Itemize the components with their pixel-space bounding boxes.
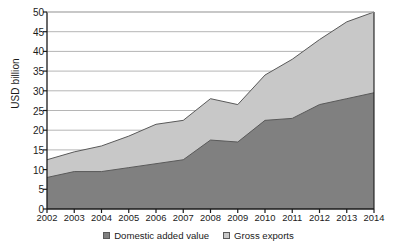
x-axis-tick-label: 2008 — [200, 212, 221, 223]
x-axis-tick-label: 2004 — [91, 212, 112, 223]
x-axis-tick-label: 2002 — [37, 212, 58, 223]
x-axis-tick-label: 2003 — [64, 212, 85, 223]
x-axis-tick-label: 2009 — [227, 212, 248, 223]
x-axis-tick-labels: 2002200320042005200620072008200920102011… — [0, 212, 397, 228]
chart-legend: Domestic added valueGross exports — [0, 230, 397, 241]
legend-swatch-icon — [103, 232, 110, 239]
stacked-area-chart: USD billion 05101520253035404550 2002200… — [0, 0, 397, 250]
x-axis-tick-label: 2010 — [255, 212, 276, 223]
x-axis-tick-label: 2005 — [118, 212, 139, 223]
x-axis-tick-label: 2007 — [173, 212, 194, 223]
legend-label: Domestic added value — [114, 230, 209, 241]
x-axis-tick-label: 2012 — [309, 212, 330, 223]
x-axis-tick-label: 2014 — [364, 212, 385, 223]
x-axis-tick-label: 2011 — [282, 212, 302, 223]
legend-item[interactable]: Gross exports — [223, 230, 294, 241]
legend-swatch-icon — [223, 232, 230, 239]
x-axis-tick-label: 2006 — [146, 212, 167, 223]
x-axis-tick-label: 2013 — [336, 212, 357, 223]
legend-label: Gross exports — [234, 230, 294, 241]
legend-item[interactable]: Domestic added value — [103, 230, 209, 241]
